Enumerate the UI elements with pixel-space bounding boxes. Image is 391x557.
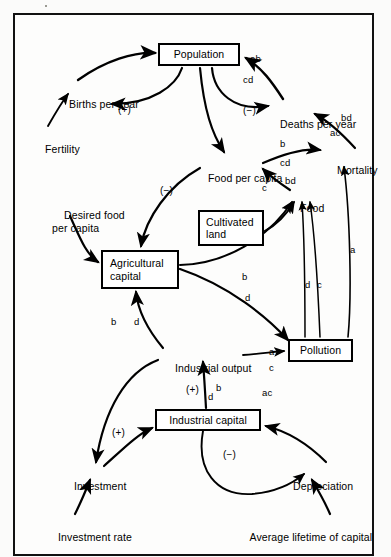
edge-label-ab-population: ab [250, 54, 261, 64]
edge-label-b-indcap-output: b [216, 383, 221, 393]
edge-label-c-pollution-food: c [317, 280, 322, 290]
polarity-plus-birth-loop: (+) [118, 105, 131, 115]
polarity-text: (+) [118, 104, 131, 115]
edge-label-c-indout-pollution: c [269, 363, 274, 373]
edge-label-text: d [305, 279, 310, 290]
edge-label-text: ac [262, 387, 272, 398]
edge-label-text: d [134, 316, 139, 327]
polarity-plus-investment-loop: (+) [112, 428, 125, 438]
edge-label-bd-food: bd [285, 176, 296, 186]
polarity-plus-output-capital: (+) [186, 385, 199, 395]
node-agricultural-capital-label: Agricultural capital [110, 257, 164, 281]
edge-label-text: bd [285, 175, 296, 186]
edge-label-b-food-per-capita: b [280, 139, 285, 149]
node-industrial-output[interactable]: Industrial output [163, 350, 252, 387]
polarity-text: (−) [160, 185, 173, 196]
polarity-text: (+) [112, 427, 125, 438]
node-food-per-capita-label: Food per capita [208, 172, 282, 184]
node-desired-food-per-capita[interactable]: Desired food per capita [52, 197, 125, 247]
edge-label-text: c [269, 362, 274, 373]
edge-label-text: b [280, 138, 285, 149]
node-fertility[interactable]: Fertility [33, 131, 80, 168]
node-food-per-capita[interactable]: Food per capita [196, 160, 283, 197]
edge-label-d-agcap-pollution: d [245, 293, 250, 303]
edge-label-d-pollution-food: d [305, 280, 310, 290]
node-investment-rate[interactable]: Investment rate [46, 519, 132, 556]
edge-label-text: d [245, 292, 250, 303]
node-investment-rate-label: Investment rate [58, 531, 132, 543]
edge-label-b-agcap-food: b [242, 272, 247, 282]
node-cultivated-land-label: Cultivated land [206, 216, 254, 240]
node-desired-food-per-capita-label: Desired food per capita [52, 209, 125, 233]
edge-label-text: cd [243, 74, 253, 85]
node-fertility-label: Fertility [45, 143, 80, 155]
edge-label-c-food: c [262, 183, 267, 193]
node-cultivated-land[interactable]: Cultivated land [198, 210, 264, 246]
edge-label-cd-population: cd [243, 75, 253, 85]
polarity-minus-food-loop: (−) [160, 186, 173, 196]
node-industrial-capital[interactable]: Industrial capital [155, 409, 261, 431]
edge-label-d-indout-agcap: d [134, 317, 139, 327]
edge-label-text: c [317, 279, 322, 290]
node-mortality[interactable]: Mortality [325, 152, 378, 189]
node-depreciation[interactable]: Depreciation [281, 468, 353, 505]
edge-label-bd-mortality: bd [341, 113, 352, 123]
polarity-minus-depreciation: (−) [223, 450, 236, 460]
node-pollution[interactable]: Pollution [288, 339, 353, 362]
edge-label-text: d [208, 391, 213, 402]
node-investment-label: Investment [74, 480, 126, 492]
node-depreciation-label: Depreciation [293, 480, 353, 492]
edge-label-text: cd [280, 157, 290, 168]
edge-label-ac-indcap: ac [262, 388, 272, 398]
edge-label-text: c [262, 182, 267, 193]
edge-label-text: a [350, 244, 355, 255]
node-average-lifetime-of-capital[interactable]: Average lifetime of capital [238, 519, 372, 556]
scan-speck [45, 5, 47, 7]
figure-canvas: Population Cultivated land Agricultural … [0, 0, 391, 557]
edge-label-b-indout-agcap: b [111, 317, 116, 327]
node-pollution-label: Pollution [300, 344, 341, 356]
node-food[interactable]: Food [288, 190, 324, 227]
edge-label-text: b [216, 382, 221, 393]
edge-label-a-indout-pollution: a [269, 347, 274, 357]
node-investment[interactable]: Investment [62, 468, 126, 505]
edge-label-text: bd [341, 112, 352, 123]
node-industrial-output-label: Industrial output [175, 362, 251, 374]
node-population-label: Population [174, 48, 225, 60]
edge-label-text: ab [250, 53, 261, 64]
node-average-lifetime-of-capital-label: Average lifetime of capital [250, 531, 373, 543]
polarity-minus-death-loop: (−) [243, 106, 256, 116]
node-population[interactable]: Population [158, 43, 240, 66]
node-industrial-capital-label: Industrial capital [169, 414, 247, 426]
edge-label-ac-mortality: ac [330, 128, 340, 138]
edge-label-a-pollution-mortality: a [350, 245, 355, 255]
edge-label-cd-food-per-capita: cd [280, 158, 290, 168]
edge-label-text: b [111, 316, 116, 327]
edge-label-d-indcap-output: d [208, 392, 213, 402]
edge-label-text: b [242, 271, 247, 282]
polarity-text: (−) [243, 105, 256, 116]
node-mortality-label: Mortality [337, 164, 378, 176]
edge-label-text: ac [330, 127, 340, 138]
node-food-label: Food [300, 202, 324, 214]
edge-label-text: a [269, 346, 274, 357]
node-agricultural-capital[interactable]: Agricultural capital [101, 250, 179, 289]
polarity-text: (−) [223, 449, 236, 460]
polarity-text: (+) [186, 384, 199, 395]
